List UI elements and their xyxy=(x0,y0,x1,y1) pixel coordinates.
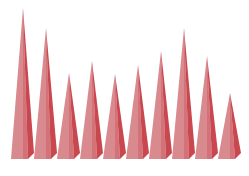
pyramid-bar xyxy=(34,28,57,159)
pyramid-bar xyxy=(149,51,172,159)
pyramid-bar xyxy=(195,56,218,159)
pyramid-bar xyxy=(218,93,241,159)
pyramid-bar xyxy=(80,61,103,159)
pyramid-bar xyxy=(103,74,126,159)
pyramid-bar xyxy=(126,65,149,159)
pyramid-bar xyxy=(57,73,80,159)
pyramid-chart xyxy=(0,0,249,176)
pyramid-bar xyxy=(11,8,34,159)
pyramid-bar xyxy=(172,28,195,159)
